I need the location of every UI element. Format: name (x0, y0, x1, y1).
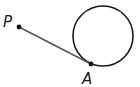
geometry-diagram: P A (0, 0, 140, 87)
circle (73, 6, 133, 66)
point-p-dot (17, 25, 22, 30)
point-p-label: P (3, 13, 13, 31)
point-a-dot (89, 62, 94, 67)
tangent-segment-pa (19, 27, 91, 64)
point-a-label: A (81, 70, 92, 87)
